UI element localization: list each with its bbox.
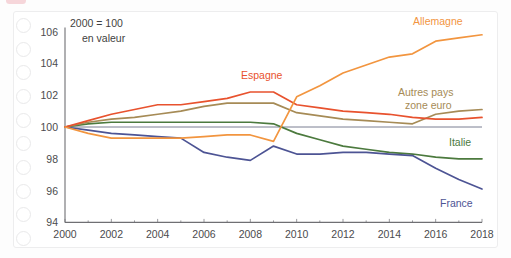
y-tick-label: 106	[40, 26, 58, 38]
series-label-france: France	[440, 197, 473, 209]
x-tick-label: 2016	[424, 228, 448, 240]
series-label-italie: Italie	[449, 136, 471, 148]
y-tick-label: 104	[40, 57, 58, 69]
binder-hole	[16, 42, 31, 57]
series-label-allemagne: Allemagne	[413, 15, 463, 27]
binder-hole	[16, 160, 31, 175]
chart-screenshot-root: 949698100102104106 200020022004200620082…	[0, 0, 511, 258]
series-label-autres-pays-line2: zone euro	[405, 99, 452, 111]
x-tick-label: 2004	[146, 228, 170, 240]
y-tick-label: 98	[46, 153, 58, 165]
binder-hole	[16, 65, 31, 80]
binder-hole	[16, 113, 31, 128]
binder-hole	[16, 184, 31, 199]
binder-hole	[16, 231, 31, 246]
x-tick-label: 2000	[53, 228, 77, 240]
y-tick-label: 102	[40, 89, 58, 101]
x-tick-label: 2008	[239, 228, 263, 240]
series-label-espagne: Espagne	[241, 69, 283, 81]
y-tick-label: 100	[40, 121, 58, 133]
clipped-decoration	[6, 0, 26, 4]
notebook-binding-holes	[10, 18, 36, 246]
series-line-france	[65, 127, 482, 189]
binder-hole	[16, 207, 31, 222]
series-label-autres-pays-line1: Autres pays	[398, 86, 453, 98]
y-axis-tick-labels: 949698100102104106	[40, 26, 58, 229]
line-chart: 949698100102104106 200020022004200620082…	[0, 0, 511, 258]
binder-hole	[16, 89, 31, 104]
y-tick-label: 96	[46, 185, 58, 197]
binder-hole	[16, 136, 31, 151]
x-tick-label: 2002	[100, 228, 124, 240]
binder-hole	[16, 18, 31, 33]
x-tick-label: 2012	[331, 228, 355, 240]
x-axis-tick-labels: 2000200220042006200820102012201420162018	[53, 228, 494, 240]
y-tick-label: 94	[46, 216, 58, 228]
series-lines	[65, 35, 482, 189]
annotation-line-1: 2000 = 100	[70, 17, 123, 29]
annotation-line-2: en valeur	[82, 32, 126, 44]
x-tick-label: 2010	[285, 228, 309, 240]
x-tick-label: 2014	[378, 228, 402, 240]
x-tick-label: 2006	[192, 228, 216, 240]
x-tick-label: 2018	[470, 228, 494, 240]
